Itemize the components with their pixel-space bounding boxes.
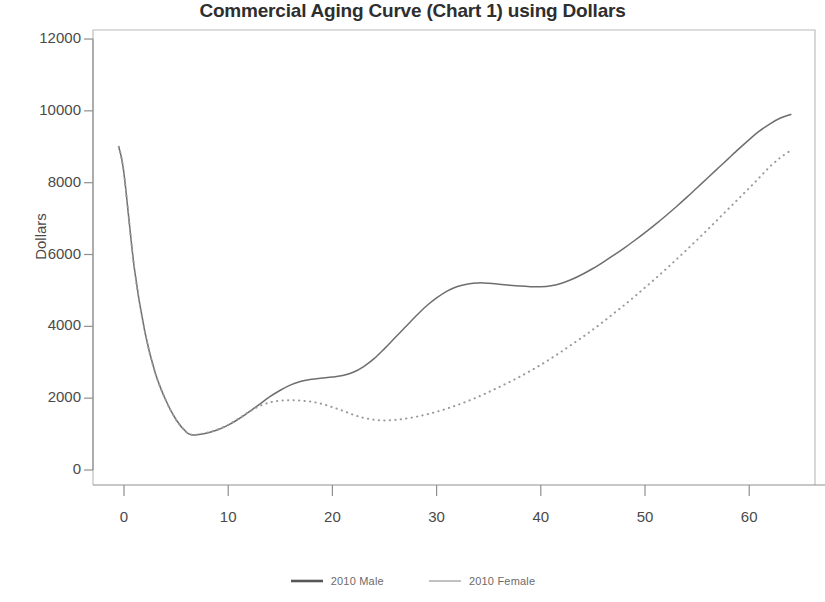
legend-item: 2010 Male: [290, 575, 384, 587]
plot-area: [0, 0, 825, 602]
legend-label: 2010 Female: [469, 575, 535, 587]
chart-container: Commercial Aging Curve (Chart 1) using D…: [0, 0, 825, 602]
series-line-2010-male: [119, 114, 791, 435]
legend-label: 2010 Male: [331, 575, 384, 587]
legend-item: 2010 Female: [428, 575, 535, 587]
series-line-2010-female: [119, 147, 791, 435]
legend-line-icon: [290, 576, 324, 586]
chart-legend: 2010 Male2010 Female: [0, 575, 825, 587]
legend-line-icon: [428, 576, 462, 586]
